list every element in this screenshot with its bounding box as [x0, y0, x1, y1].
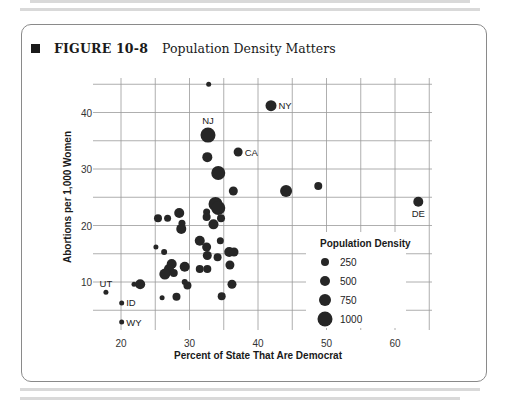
y-tick-label: 20: [81, 221, 93, 232]
data-point: [203, 213, 211, 221]
data-point: [217, 214, 225, 222]
data-point: [154, 214, 162, 222]
x-tick-label: 50: [321, 338, 333, 349]
data-point: [314, 182, 322, 190]
data-point: [211, 166, 225, 180]
data-point: [234, 148, 243, 157]
legend-label: 750: [340, 295, 357, 306]
scatter-plot: 203040506010203040 NYNJCADEUTIDWY Popula…: [0, 0, 505, 403]
y-tick-label: 30: [81, 164, 93, 175]
legend-title: Population Density: [320, 238, 411, 249]
state-label-nj: NJ: [202, 115, 214, 126]
data-point: [227, 280, 236, 289]
data-point: [119, 320, 124, 325]
data-point: [280, 185, 292, 197]
data-point: [103, 290, 108, 295]
state-label-wy: WY: [126, 317, 142, 328]
data-point: [218, 292, 226, 300]
data-point: [206, 82, 211, 87]
x-tick-label: 30: [184, 338, 196, 349]
state-label-ca: CA: [245, 147, 259, 158]
data-point: [135, 279, 145, 289]
data-point: [119, 300, 124, 305]
data-point: [183, 281, 191, 289]
data-point: [164, 215, 171, 222]
state-label-id: ID: [126, 297, 136, 308]
data-point: [203, 265, 211, 273]
legend-swatch: [320, 276, 330, 286]
x-tick-label: 60: [389, 338, 401, 349]
data-point: [413, 197, 423, 207]
y-axis-title: Abortions per 1,000 Women: [62, 131, 73, 263]
y-tick-label: 10: [81, 277, 93, 288]
data-point: [217, 237, 224, 244]
data-point: [172, 293, 180, 301]
legend-label: 250: [340, 257, 357, 268]
data-point: [208, 219, 218, 229]
x-axis-title: Percent of State That Are Democrat: [174, 350, 343, 361]
legend-label: 500: [340, 276, 357, 287]
legend-swatch: [318, 312, 333, 327]
data-point: [176, 224, 186, 234]
state-label-de: DE: [412, 208, 425, 219]
data-point: [203, 251, 212, 260]
state-label-ny: NY: [279, 100, 293, 111]
data-point: [174, 208, 184, 218]
x-tick-label: 20: [115, 338, 127, 349]
state-label-ut: UT: [100, 278, 113, 289]
data-point: [230, 248, 239, 257]
data-point: [202, 242, 211, 251]
data-point: [180, 262, 190, 272]
data-point: [200, 128, 215, 143]
legend-swatch: [321, 258, 329, 266]
legend-label: 1000: [340, 314, 363, 325]
data-point: [196, 265, 204, 273]
data-point: [229, 187, 238, 196]
size-legend: Population Density2505007501000: [306, 232, 411, 328]
data-point: [132, 282, 137, 287]
x-tick-label: 40: [252, 338, 264, 349]
data-point: [202, 152, 212, 162]
data-point: [225, 261, 234, 270]
data-point: [266, 100, 277, 111]
legend-swatch: [319, 294, 331, 306]
data-point: [161, 249, 167, 255]
data-point: [211, 201, 225, 215]
data-point: [159, 269, 170, 280]
data-point: [160, 295, 165, 300]
data-point: [170, 269, 178, 277]
data-point: [214, 253, 222, 261]
y-tick-label: 40: [81, 108, 93, 119]
data-point: [153, 244, 158, 249]
